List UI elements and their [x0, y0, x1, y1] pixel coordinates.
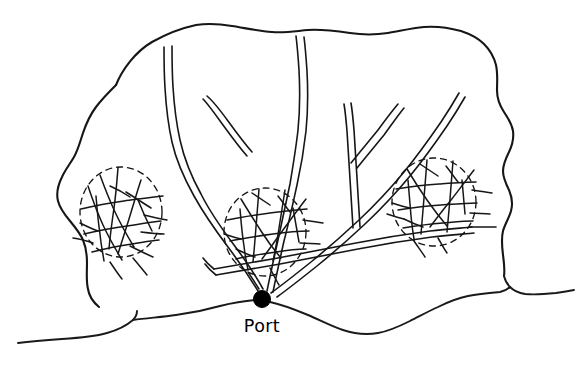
road-branch-northeast	[351, 104, 404, 168]
road-northeast	[271, 93, 465, 297]
hinterland-outline-left	[57, 85, 116, 307]
hinterland-outline	[116, 24, 513, 276]
road-junction-stub	[203, 258, 216, 275]
port-marker-dot[interactable]	[254, 291, 271, 308]
city-right	[387, 158, 492, 257]
coastline	[18, 276, 574, 343]
road-branch-northwest	[203, 96, 252, 156]
schematic-map-svg: Port	[0, 0, 582, 368]
port-node[interactable]	[254, 291, 271, 308]
figure-root: Port	[0, 0, 582, 368]
road-branch-north-right	[344, 103, 360, 228]
port-label: Port	[244, 316, 280, 336]
